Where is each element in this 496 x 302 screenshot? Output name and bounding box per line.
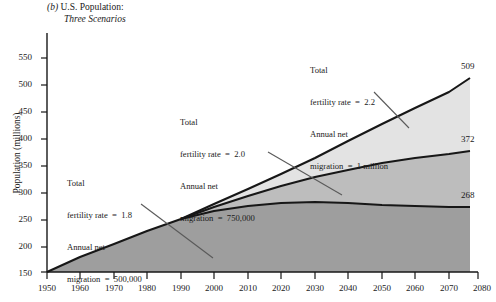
endpoint-label-high: 509 (461, 61, 475, 71)
annotation-medium-line-1: Total (180, 117, 255, 128)
annotation-high-line-3: Annual net (310, 129, 388, 140)
annotation-low-line-4: migration = 500,000 (67, 274, 142, 285)
annotation-low-line-2: fertility rate = 1.8 (67, 210, 142, 221)
endpoint-label-medium: 372 (461, 134, 475, 144)
y-axis-ticks (41, 58, 47, 272)
annotation-high-line-4: migration = 1 million (310, 161, 388, 172)
annotation-medium: Total fertility rate = 2.0 Annual net mi… (180, 96, 255, 244)
annotation-low-line-3: Annual net (67, 242, 142, 253)
annotation-low-line-1: Total (67, 178, 142, 189)
annotation-medium-line-2: fertility rate = 2.0 (180, 149, 255, 160)
annotation-high: Total fertility rate = 2.2 Annual net mi… (310, 44, 388, 192)
annotation-medium-line-4: migration = 750,000 (180, 213, 255, 224)
annotation-low: Total fertility rate = 1.8 Annual net mi… (67, 157, 142, 302)
annotation-medium-line-3: Annual net (180, 181, 255, 192)
annotation-high-line-2: fertility rate = 2.2 (310, 97, 388, 108)
endpoint-label-low: 268 (461, 190, 475, 200)
annotation-high-line-1: Total (310, 65, 388, 76)
